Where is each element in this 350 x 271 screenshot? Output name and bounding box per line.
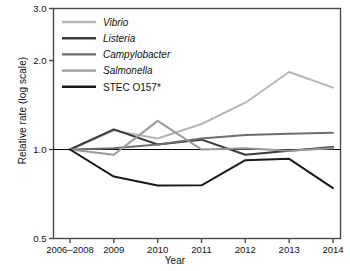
x-tick-label: 2013 bbox=[279, 244, 300, 255]
y-tick-label: 0.5 bbox=[33, 233, 46, 244]
x-tick-label: 2012 bbox=[235, 244, 256, 255]
legend-label-vibrio: Vibrio bbox=[103, 17, 129, 28]
x-tick-label: 2014 bbox=[322, 244, 343, 255]
line-chart-plot: 3.02.01.00.52006–20082009201020112012201… bbox=[0, 0, 350, 271]
x-tick-label: 2010 bbox=[147, 244, 168, 255]
y-tick-label: 3.0 bbox=[33, 3, 46, 14]
x-tick-label: 2006–2008 bbox=[46, 244, 94, 255]
y-tick-label: 1.0 bbox=[33, 144, 46, 155]
legend-label-listeria: Listeria bbox=[103, 33, 136, 44]
y-axis-title: Relative rate (log scale) bbox=[17, 41, 28, 181]
chart-figure: 3.02.01.00.52006–20082009201020112012201… bbox=[0, 0, 350, 271]
x-tick-label: 2009 bbox=[103, 244, 124, 255]
x-tick-label: 2011 bbox=[191, 244, 211, 255]
series-line-stec-o157 bbox=[70, 150, 333, 189]
y-tick-label: 2.0 bbox=[33, 55, 46, 66]
legend-label-campylobacter: Campylobacter bbox=[103, 49, 171, 60]
series-line-campylobacter bbox=[70, 133, 333, 150]
legend-label-stec-o157: STEC O157* bbox=[103, 82, 161, 93]
x-axis-title: Year bbox=[0, 255, 350, 266]
plot-frame bbox=[54, 9, 341, 239]
legend-label-salmonella: Salmonella bbox=[103, 65, 153, 76]
